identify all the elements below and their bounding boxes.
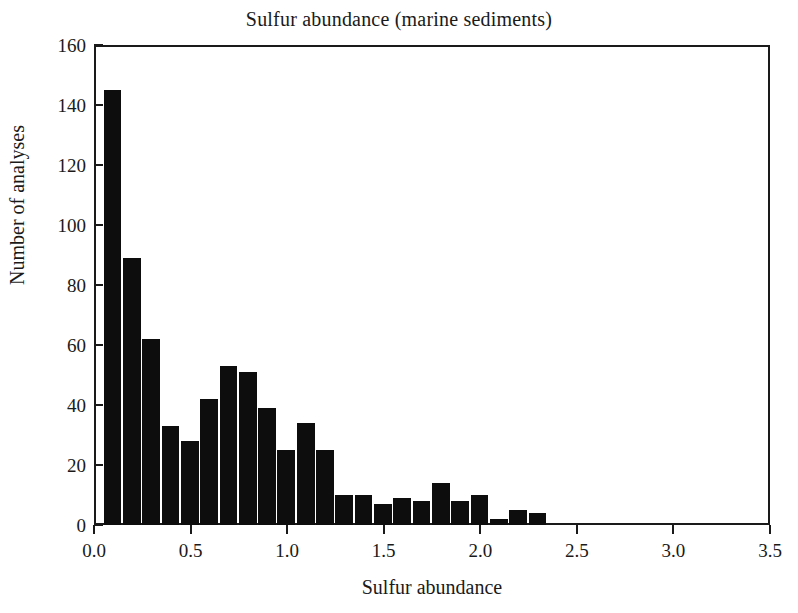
x-axis-tick	[190, 525, 192, 534]
histogram-bar	[509, 510, 527, 525]
x-axis-tick-label: 2.0	[445, 541, 515, 560]
histogram-bar	[200, 399, 218, 525]
histogram-bar	[451, 501, 469, 525]
x-axis-tick	[383, 525, 385, 534]
y-axis-tick-label: 100	[26, 216, 86, 235]
histogram-bar	[162, 426, 180, 525]
y-axis-tick	[94, 464, 103, 466]
y-axis-tick-label: 0	[26, 516, 86, 535]
histogram-bar	[123, 258, 141, 525]
x-axis-tick-label: 3.0	[638, 541, 708, 560]
x-axis-tick-label: 0.0	[59, 541, 129, 560]
x-axis-tick-label: 0.5	[156, 541, 226, 560]
x-axis-tick	[93, 525, 95, 534]
histogram-bar	[220, 366, 238, 525]
histogram-bar	[258, 408, 276, 525]
histogram-bar	[432, 483, 450, 525]
y-axis-tick	[94, 524, 103, 526]
y-axis-tick	[94, 44, 103, 46]
histogram-bar	[335, 495, 353, 525]
y-axis-tick-label: 140	[26, 96, 86, 115]
histogram-bar	[297, 423, 315, 525]
histogram-bar	[529, 513, 547, 525]
y-axis-tick-label: 120	[26, 156, 86, 175]
x-axis-tick	[576, 525, 578, 534]
histogram-figure: Sulfur abundance (marine sediments) 0204…	[0, 0, 798, 613]
y-axis-tick-label: 60	[26, 336, 86, 355]
bars-layer	[94, 45, 770, 525]
y-axis-tick	[94, 404, 103, 406]
x-axis-title: Sulfur abundance	[94, 576, 770, 599]
x-axis-tick	[286, 525, 288, 534]
x-axis-tick	[672, 525, 674, 534]
histogram-bar	[413, 501, 431, 525]
histogram-bar	[142, 339, 160, 525]
x-axis-tick	[479, 525, 481, 534]
histogram-bar	[374, 504, 392, 525]
histogram-bar	[316, 450, 334, 525]
y-axis-tick	[94, 224, 103, 226]
y-axis-tick-label: 20	[26, 456, 86, 475]
y-axis-tick	[94, 284, 103, 286]
histogram-bar	[490, 519, 508, 525]
chart-title: Sulfur abundance (marine sediments)	[0, 8, 798, 31]
y-axis-tick-label: 160	[26, 36, 86, 55]
x-axis-tick-label: 1.5	[349, 541, 419, 560]
y-axis-title: Number of analyses	[6, 125, 29, 285]
histogram-bar	[355, 495, 373, 525]
x-axis-tick	[769, 525, 771, 534]
histogram-bar	[471, 495, 489, 525]
y-axis-tick	[94, 164, 103, 166]
histogram-bar	[181, 441, 199, 525]
histogram-bar	[393, 498, 411, 525]
histogram-bar	[104, 90, 122, 525]
y-axis-tick	[94, 104, 103, 106]
x-axis-tick-label: 2.5	[542, 541, 612, 560]
histogram-bar	[277, 450, 295, 525]
x-axis-tick-label: 3.5	[735, 541, 798, 560]
histogram-bar	[239, 372, 257, 525]
y-axis-tick	[94, 344, 103, 346]
x-axis-tick-label: 1.0	[252, 541, 322, 560]
y-axis-tick-label: 80	[26, 276, 86, 295]
y-axis-tick-label: 40	[26, 396, 86, 415]
